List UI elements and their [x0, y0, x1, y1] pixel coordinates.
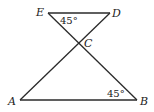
label-D: D	[111, 7, 121, 20]
label-C: C	[84, 37, 93, 50]
segment-EB	[48, 13, 137, 100]
angle-B-label: 45°	[107, 88, 125, 99]
segment-DA	[20, 13, 110, 100]
label-B: B	[139, 95, 148, 108]
label-E: E	[35, 6, 44, 19]
angle-E-label: 45°	[60, 15, 78, 26]
geometry-diagram: E D C A B 45° 45°	[0, 0, 154, 112]
label-A: A	[7, 95, 16, 108]
